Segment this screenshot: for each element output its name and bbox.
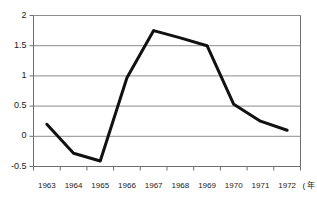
cropped-caption [0,203,316,212]
x-axis-unit-label: ( 年 ) [303,182,317,190]
y-axis-tick-label: 1.5 [14,41,27,50]
x-axis-tick-label: 1963 [33,182,61,190]
y-axis-tick-label: 0 [21,131,26,140]
x-axis-tick-label: 1969 [193,182,221,190]
x-axis-tick-label: 1968 [166,182,194,190]
x-axis-tick-label: 1967 [140,182,168,190]
x-axis-tick-label: 1964 [60,182,88,190]
x-axis-tick-label: 1966 [113,182,141,190]
x-axis-tick-label: 1971 [246,182,274,190]
x-axis-tick-label: 1972 [273,182,301,190]
y-axis-tick-label: 0.5 [14,101,27,110]
chart-container: 21.510.50-0.5 19631964196519661967196819… [0,0,316,212]
y-axis-tick-label: -0.5 [11,162,27,171]
x-axis-tick-label: 1970 [220,182,248,190]
x-axis-tick-label: 1965 [86,182,114,190]
y-axis-tick-label: 1 [21,71,26,80]
y-axis-tick-label: 2 [21,11,26,20]
